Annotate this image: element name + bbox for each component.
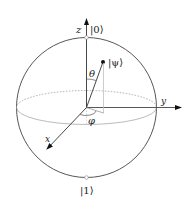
x-axis-label: x [45, 134, 50, 144]
bloch-sphere-diagram: z |0⟩ |ψ⟩ θ y φ x |1⟩ [0, 0, 185, 208]
ket-one-label: |1⟩ [80, 185, 94, 197]
y-axis-label: y [160, 96, 167, 106]
ket-zero-label: |0⟩ [90, 24, 104, 36]
bloch-sphere-svg: z |0⟩ |ψ⟩ θ y φ x |1⟩ [0, 0, 185, 208]
z-axis-label: z [75, 24, 82, 35]
x-axis [47, 108, 87, 150]
phi-label: φ [88, 115, 95, 126]
ket-psi-label: |ψ⟩ [108, 57, 123, 69]
equator-front [17, 108, 157, 125]
north-pole-marker [85, 36, 89, 40]
south-pole-marker [85, 176, 89, 180]
theta-arc [87, 79, 97, 81]
psi-point [101, 60, 105, 64]
psi-equatorial-projection [87, 108, 104, 114]
theta-label: θ [89, 68, 95, 79]
